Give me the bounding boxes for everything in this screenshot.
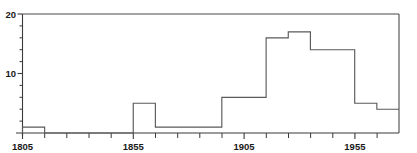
x-tick-label-1805: 1805	[12, 141, 34, 152]
x-tick-label-1905: 1905	[234, 141, 256, 152]
x-tick-label-1955: 1955	[344, 141, 366, 152]
histogram-plot: 20 10 1805 1855 1905 1955	[0, 0, 417, 153]
y-tick-label-10: 10	[5, 68, 16, 79]
x-tick-label-1855: 1855	[123, 141, 145, 152]
chart-figure: 20 10 1805 1855 1905 1955	[0, 0, 417, 153]
y-tick-label-20: 20	[5, 9, 16, 20]
